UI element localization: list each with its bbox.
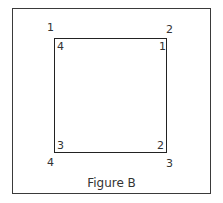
outer-corner-label-bottom-right: 3 xyxy=(166,158,173,169)
inner-corner-label-bottom-left: 3 xyxy=(57,140,64,151)
square xyxy=(54,38,167,153)
outer-corner-label-bottom-left: 4 xyxy=(47,157,54,168)
inner-corner-label-top-left: 4 xyxy=(57,41,64,52)
inner-corner-label-bottom-right: 2 xyxy=(157,140,164,151)
figure-caption: Figure B xyxy=(0,176,223,190)
outer-corner-label-top-left: 1 xyxy=(47,22,54,33)
inner-corner-label-top-right: 1 xyxy=(159,41,166,52)
outer-corner-label-top-right: 2 xyxy=(166,24,173,35)
